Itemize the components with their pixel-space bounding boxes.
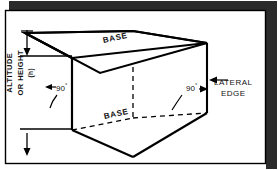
angle-left-label: 90° [56, 82, 67, 93]
lateral-edge-line1: LATERAL [214, 77, 252, 88]
altitude-label-line1: ALTITUDE [5, 26, 16, 120]
degree-symbol-right: ° [195, 82, 197, 88]
altitude-label-line3: (h) [26, 26, 37, 120]
angle-right-value: 90 [186, 84, 195, 93]
angle-left-value: 90 [56, 84, 65, 93]
angle-right-label: 90° [186, 82, 197, 93]
altitude-label-line2: OR HEIGHT [16, 26, 27, 120]
lateral-edge-label: LATERAL EDGE [214, 77, 252, 99]
right-dark-band [266, 1, 277, 169]
prism-diagram: ALTITUDE OR HEIGHT (h) BASE BASE 90° 90°… [0, 0, 278, 170]
altitude-label: ALTITUDE OR HEIGHT (h) [5, 26, 37, 120]
degree-symbol-left: ° [65, 82, 67, 88]
top-dark-band [9, 1, 275, 10]
lateral-edge-line2: EDGE [214, 88, 252, 99]
